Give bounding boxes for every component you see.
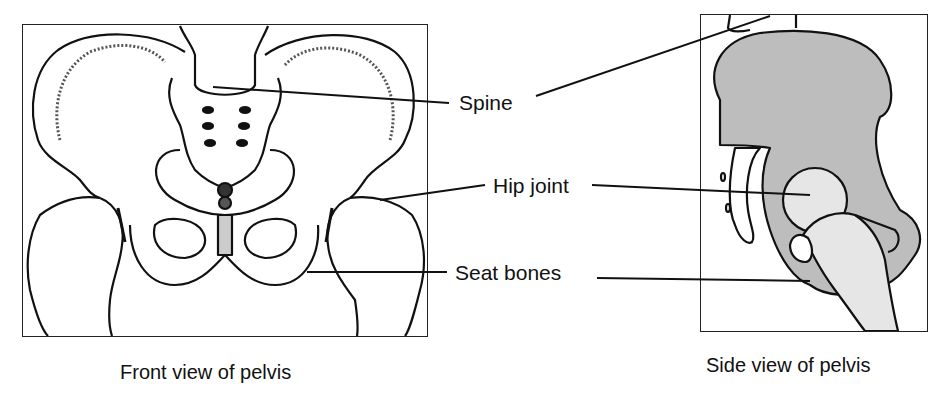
front-view-caption: Front view of pelvis — [120, 362, 291, 382]
left-obturator-foramen — [154, 219, 205, 258]
pelvis-illustration — [0, 0, 944, 396]
hip-joint-label: Hip joint — [493, 175, 569, 196]
seat-bones-label: Seat bones — [455, 262, 561, 283]
front-pelvis-drawing — [28, 26, 424, 336]
right-femur-outline — [350, 197, 424, 336]
right-ilium-outline — [265, 35, 414, 198]
spine-label: Spine — [459, 92, 513, 113]
seat-bones-leader-side — [597, 278, 810, 281]
left-femur-outline — [28, 197, 100, 336]
spine-outline — [180, 26, 268, 95]
sacrum-side-outline — [730, 148, 760, 243]
right-obturator-foramen — [245, 219, 296, 258]
hip-joint-leader-front — [380, 185, 485, 200]
side-pelvis-drawing — [714, 15, 920, 331]
side-view-caption: Side view of pelvis — [706, 355, 871, 375]
